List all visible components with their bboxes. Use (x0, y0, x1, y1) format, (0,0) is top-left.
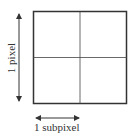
subpixel-label: 1 subpixel (34, 121, 80, 133)
pixel-diagram (0, 0, 135, 140)
pixel-label: 1 pixel (5, 43, 17, 73)
